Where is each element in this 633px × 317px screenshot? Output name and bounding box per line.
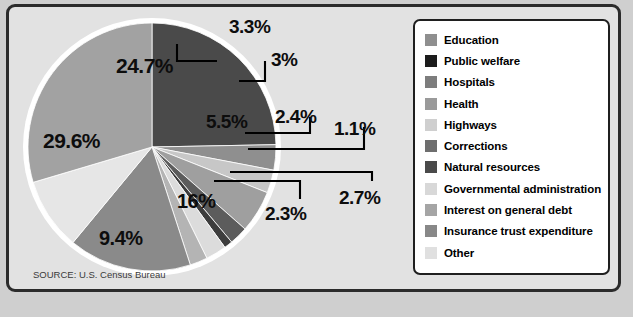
legend-swatch-icon: [425, 204, 437, 216]
legend-item[interactable]: Corrections: [425, 135, 608, 156]
slice-label-public-welfare: 29.6%: [43, 129, 100, 153]
slice-label-hospitals: 3.3%: [229, 16, 270, 38]
legend-swatch-icon: [425, 34, 437, 46]
legend-item-label: Natural resources: [444, 161, 540, 173]
slice-label-interest: 2.3%: [265, 203, 306, 225]
legend-item[interactable]: Interest on general debt: [425, 199, 608, 220]
slice-label-natural-resources: 1.1%: [334, 118, 375, 140]
legend-swatch-icon: [425, 98, 437, 110]
legend-item[interactable]: Education: [425, 29, 608, 50]
legend-swatch-icon: [425, 76, 437, 88]
legend-item-label: Other: [444, 247, 474, 259]
source-note: SOURCE: U.S. Census Bureau: [33, 269, 166, 280]
slice-label-education: 24.7%: [116, 54, 173, 78]
slice-label-gov-admin: 2.7%: [339, 187, 380, 209]
legend-box: EducationPublic welfareHospitalsHealthHi…: [413, 19, 610, 275]
legend-item-label: Public welfare: [444, 55, 520, 67]
legend-item-label: Insurance trust expenditure: [444, 225, 593, 237]
legend-item-label: Corrections: [444, 140, 507, 152]
legend-item[interactable]: Other: [425, 242, 608, 263]
slice-label-other: 9.4%: [99, 227, 143, 250]
legend-item[interactable]: Highways: [425, 114, 608, 135]
legend-item[interactable]: Health: [425, 93, 608, 114]
legend-item[interactable]: Hospitals: [425, 72, 608, 93]
slice-label-corrections: 2.4%: [275, 106, 316, 128]
legend-swatch-icon: [425, 183, 437, 195]
legend-item-label: Governmental administration: [444, 183, 601, 195]
legend-item[interactable]: Governmental administration: [425, 178, 608, 199]
slice-label-health: 3%: [271, 49, 297, 71]
legend-swatch-icon: [425, 140, 437, 152]
legend-item[interactable]: Insurance trust expenditure: [425, 221, 608, 242]
chart-panel: 24.7% 3.3% 3% 5.5% 2.4% 1.1% 2.7% 2.3% 1…: [6, 4, 621, 292]
legend-swatch-icon: [425, 247, 437, 259]
legend-swatch-icon: [425, 119, 437, 131]
legend-item-label: Health: [444, 98, 479, 110]
legend-swatch-icon: [425, 55, 437, 67]
slice-label-insurance: 16%: [177, 190, 216, 213]
legend-item[interactable]: Natural resources: [425, 157, 608, 178]
legend-item-label: Education: [444, 34, 499, 46]
legend-item[interactable]: Public welfare: [425, 50, 608, 71]
legend-swatch-icon: [425, 225, 437, 237]
slice-label-highways: 5.5%: [206, 111, 247, 133]
legend-item-label: Hospitals: [444, 76, 495, 88]
legend-item-label: Interest on general debt: [444, 204, 572, 216]
legend-swatch-icon: [425, 161, 437, 173]
pie-chart-area: 24.7% 3.3% 3% 5.5% 2.4% 1.1% 2.7% 2.3% 1…: [9, 7, 409, 289]
legend-item-label: Highways: [444, 119, 497, 131]
